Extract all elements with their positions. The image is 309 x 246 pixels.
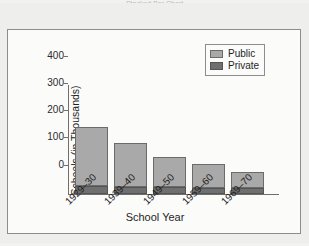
y-tick-label-200: 200 [24,105,64,115]
y-tick-label-0: 0 [24,160,64,170]
legend-swatch-public-icon [210,50,223,58]
y-tick-mark-300 [64,83,68,84]
legend-label-public: Public [228,49,255,59]
y-tick-label-100: 100 [24,132,64,142]
x-axis-line [68,194,279,195]
legend-swatch-private-icon [210,62,223,70]
x-axis-title: School Year [8,211,302,223]
legend-item-public: Public [210,48,259,60]
legend-item-private: Private [210,60,259,72]
y-tick-label-300: 300 [24,78,64,88]
chart-panel: Schools (in Thousands) 400 300 200 100 0 [7,29,301,234]
y-tick-label-400: 400 [24,51,64,61]
legend-label-private: Private [228,61,259,71]
y-tick-mark-400 [64,56,68,57]
y-axis-tick-labels: 400 300 200 100 0 [18,30,64,235]
chart-legend: Public Private [205,44,265,76]
